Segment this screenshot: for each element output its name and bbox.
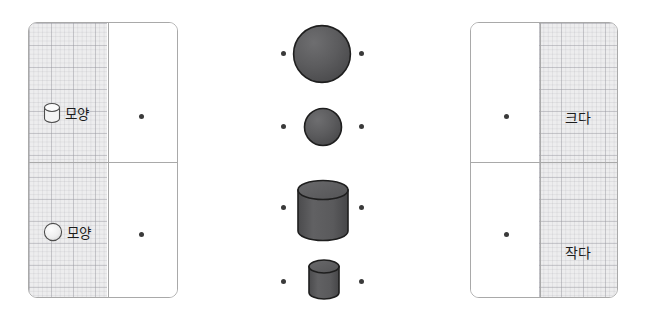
- sphere-icon: [43, 222, 63, 242]
- connector-dot-large-sphere-left[interactable]: [281, 51, 286, 56]
- grid-background-left: [29, 23, 109, 297]
- exercise-canvas: 모양 모양: [0, 0, 647, 320]
- vertical-divider-left: [108, 23, 109, 297]
- sphere-shape-label-text: 모양: [67, 222, 90, 242]
- connector-dot-large-sphere-right[interactable]: [359, 51, 364, 56]
- connector-dot-small-cylinder-left[interactable]: [281, 279, 286, 284]
- white-half-left: [107, 23, 177, 297]
- connector-dot-large-cylinder-left[interactable]: [281, 205, 286, 210]
- connector-dot-sphere-row[interactable]: [139, 232, 144, 237]
- connector-dot-small-sphere-left[interactable]: [281, 124, 286, 129]
- cylinder-icon: [43, 102, 61, 124]
- big-size-label-text: 크다: [539, 107, 617, 127]
- cylinder-shape-label-group: 모양: [43, 102, 88, 124]
- sphere-shape-label-group: 모양: [43, 222, 90, 242]
- horizontal-divider-right: [471, 162, 617, 163]
- large-cylinder-object[interactable]: [296, 178, 350, 244]
- horizontal-divider-left: [29, 162, 177, 163]
- small-sphere-object[interactable]: [303, 107, 343, 147]
- connector-dot-cylinder-row[interactable]: [139, 114, 144, 119]
- connector-dot-small-sphere-right[interactable]: [359, 124, 364, 129]
- small-cylinder-object[interactable]: [307, 258, 341, 302]
- connector-dot-big-row[interactable]: [504, 114, 509, 119]
- white-half-right: [471, 23, 541, 297]
- connector-dot-small-cylinder-right[interactable]: [359, 279, 364, 284]
- size-attribute-panel: 크다 작다: [470, 22, 618, 298]
- small-size-label-text: 작다: [539, 242, 617, 262]
- shape-attribute-panel: 모양 모양: [28, 22, 178, 298]
- connector-dot-large-cylinder-right[interactable]: [359, 205, 364, 210]
- cylinder-shape-label-text: 모양: [65, 103, 88, 123]
- large-sphere-object[interactable]: [292, 24, 352, 84]
- connector-dot-small-row[interactable]: [504, 232, 509, 237]
